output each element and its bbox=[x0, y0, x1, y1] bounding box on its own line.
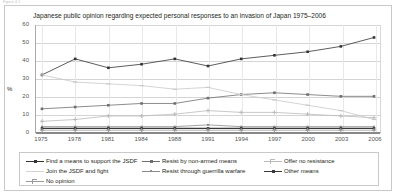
y-tick-label: 0 bbox=[13, 129, 29, 135]
series-svg bbox=[36, 25, 380, 132]
series-line bbox=[42, 37, 374, 74]
x-tick-label: 2006 bbox=[360, 136, 390, 142]
gridline bbox=[36, 133, 380, 134]
legend-marker-glyph bbox=[32, 171, 37, 172]
data-point-marker bbox=[272, 110, 276, 114]
data-point-marker bbox=[272, 99, 276, 100]
y-tick-label: 60 bbox=[13, 21, 29, 27]
data-point-marker bbox=[306, 50, 309, 53]
legend-label: Resist through guerrilla warfare bbox=[162, 168, 245, 174]
data-point-marker bbox=[306, 93, 309, 96]
legend-item[interactable]: Find a means to support the JSDF bbox=[26, 156, 137, 166]
legend-marker-icon bbox=[26, 157, 44, 166]
data-point-marker bbox=[174, 102, 177, 105]
data-point-marker bbox=[73, 117, 77, 121]
legend-item[interactable]: No opinion bbox=[26, 176, 75, 186]
data-point-marker bbox=[340, 45, 343, 48]
x-tick-label: 1981 bbox=[93, 136, 123, 142]
series-0 bbox=[41, 36, 376, 76]
legend-marker-icon bbox=[264, 167, 282, 176]
data-point-marker bbox=[73, 81, 77, 82]
y-tick-label: 40 bbox=[13, 57, 29, 63]
data-point-marker bbox=[206, 109, 210, 113]
y-tick-label: 20 bbox=[13, 93, 29, 99]
legend-item[interactable]: Offer no resistance bbox=[264, 156, 335, 166]
data-point-marker bbox=[373, 36, 376, 39]
series-4 bbox=[41, 124, 375, 128]
legend-item[interactable]: Resist through guerrilla warfare bbox=[142, 166, 245, 176]
data-point-marker bbox=[174, 58, 177, 61]
data-point-marker bbox=[74, 106, 77, 109]
data-point-marker bbox=[140, 102, 143, 105]
legend-marker-glyph bbox=[34, 160, 37, 163]
data-point-marker bbox=[173, 89, 177, 90]
x-tick-label: 1997 bbox=[260, 136, 290, 142]
data-point-marker bbox=[206, 87, 210, 88]
series-2 bbox=[40, 109, 376, 124]
x-tick-label: 1994 bbox=[226, 136, 256, 142]
series-line bbox=[42, 93, 374, 109]
legend-marker-icon bbox=[142, 157, 160, 166]
data-point-marker bbox=[339, 110, 343, 111]
header-ghost-text: Figure 4.1 bbox=[3, 0, 20, 4]
legend-marker-glyph bbox=[150, 160, 153, 163]
y-tick-label: 50 bbox=[13, 39, 29, 45]
legend-marker-glyph bbox=[270, 159, 275, 164]
data-point-marker bbox=[107, 67, 110, 70]
y-tick-label: 30 bbox=[13, 75, 29, 81]
data-point-marker bbox=[107, 104, 110, 107]
legend-marker-icon bbox=[264, 157, 282, 166]
legend-item[interactable]: Other means bbox=[264, 166, 319, 176]
series-1 bbox=[41, 91, 376, 110]
data-point-marker bbox=[339, 114, 343, 118]
y-axis-label: % bbox=[7, 86, 12, 92]
x-tick-label: 1978 bbox=[59, 136, 89, 142]
legend-marker-icon bbox=[26, 167, 44, 176]
data-point-marker bbox=[207, 124, 209, 126]
data-point-marker bbox=[240, 58, 243, 61]
data-point-marker bbox=[306, 112, 310, 116]
x-tick-label: 1984 bbox=[126, 136, 156, 142]
x-tick-label: 2000 bbox=[293, 136, 323, 142]
data-point-marker bbox=[340, 95, 343, 98]
legend-marker-icon bbox=[26, 177, 44, 186]
y-tick-label: 10 bbox=[13, 111, 29, 117]
data-point-marker bbox=[173, 112, 177, 116]
data-point-marker bbox=[139, 114, 143, 118]
legend-marker-icon bbox=[142, 167, 160, 176]
legend-label: Join the JSDF and fight bbox=[46, 168, 108, 174]
data-point-marker bbox=[373, 95, 376, 98]
legend-label: Find a means to support the JSDF bbox=[46, 158, 137, 164]
data-point-marker bbox=[41, 108, 44, 111]
legend-item[interactable]: Join the JSDF and fight bbox=[26, 166, 108, 176]
data-point-marker bbox=[40, 74, 44, 75]
legend-label: Other means bbox=[284, 168, 319, 174]
legend-marker-glyph bbox=[272, 170, 275, 173]
legend-marker-glyph bbox=[150, 170, 152, 172]
data-point-marker bbox=[106, 114, 110, 118]
data-point-marker bbox=[207, 97, 210, 100]
data-point-marker bbox=[239, 110, 243, 114]
legend-item[interactable]: Resist by non-armed means bbox=[142, 156, 237, 166]
plot-area-wrapper: % 0102030405060 197519781981198419881991… bbox=[5, 22, 393, 148]
data-point-marker bbox=[273, 54, 276, 57]
data-point-marker bbox=[273, 91, 276, 94]
data-point-marker bbox=[239, 94, 243, 95]
x-tick-label: 1975 bbox=[26, 136, 56, 142]
data-point-marker bbox=[140, 63, 143, 66]
chart-legend: Find a means to support the JSDFResist b… bbox=[19, 152, 379, 186]
legend-label: No opinion bbox=[46, 178, 75, 184]
data-point-marker bbox=[139, 85, 143, 86]
data-point-marker bbox=[106, 83, 110, 84]
data-point-marker bbox=[207, 65, 210, 68]
x-tick-label: 2003 bbox=[327, 136, 357, 142]
legend-label: Offer no resistance bbox=[284, 158, 335, 164]
data-point-marker bbox=[305, 105, 309, 106]
legend-marker-glyph bbox=[32, 179, 37, 184]
data-point-marker bbox=[40, 119, 44, 123]
chart-title: Japanese public opinion regarding expect… bbox=[33, 12, 383, 20]
data-point-marker bbox=[74, 58, 77, 61]
figure-container: Japanese public opinion regarding expect… bbox=[4, 5, 392, 191]
data-point-marker bbox=[372, 119, 376, 120]
x-tick-label: 1991 bbox=[193, 136, 223, 142]
